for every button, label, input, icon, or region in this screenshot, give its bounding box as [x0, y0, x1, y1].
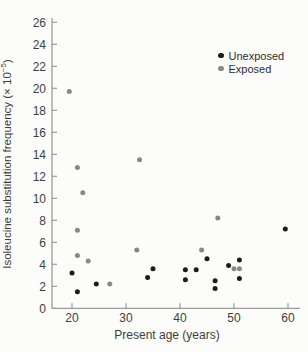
legend: Unexposed Exposed [218, 49, 284, 75]
y-tick-label: 10 [33, 192, 47, 206]
x-tick-label: 30 [119, 311, 133, 325]
x-tick-label: 60 [281, 311, 295, 325]
data-point-unexposed [283, 227, 288, 232]
data-point-unexposed [237, 276, 242, 281]
data-point-exposed [86, 259, 91, 264]
y-tick-label: 4 [39, 258, 46, 272]
data-point-unexposed [151, 266, 156, 271]
data-point-unexposed [205, 256, 210, 261]
y-tick-label: 16 [33, 126, 47, 140]
data-point-exposed [134, 248, 139, 253]
legend-label-exposed: Exposed [229, 63, 272, 75]
data-point-exposed [67, 89, 72, 94]
y-axis-title-text: Isoleucine substitution frequency (× 10 [1, 72, 13, 269]
legend-item-unexposed: Unexposed [218, 49, 284, 62]
data-point-unexposed [75, 289, 80, 294]
exposed-dot-icon [218, 66, 224, 72]
data-point-exposed [232, 266, 237, 271]
data-point-exposed [75, 165, 80, 170]
scatter-plot-figure: 024681012141618202224262030405060 Isoleu… [0, 0, 308, 352]
y-tick-label: 0 [39, 302, 46, 316]
data-point-unexposed [226, 263, 231, 268]
data-point-exposed [80, 190, 85, 195]
y-tick-label: 18 [33, 104, 47, 118]
data-point-unexposed [237, 257, 242, 262]
data-point-unexposed [183, 277, 188, 282]
data-point-exposed [75, 253, 80, 258]
y-tick-label: 14 [33, 148, 47, 162]
data-point-exposed [107, 282, 112, 287]
y-tick-label: 8 [39, 214, 46, 228]
data-point-unexposed [70, 271, 75, 276]
legend-item-exposed: Exposed [218, 62, 284, 75]
unexposed-dot-icon [218, 53, 224, 59]
y-tick-label: 26 [33, 16, 47, 30]
data-point-unexposed [194, 267, 199, 272]
x-tick-label: 40 [173, 311, 187, 325]
legend-label-unexposed: Unexposed [229, 50, 285, 62]
x-tick-label: 20 [65, 311, 79, 325]
y-tick-label: 2 [39, 280, 46, 294]
y-axis-title: Isoleucine substitution frequency (× 10−… [1, 14, 17, 314]
x-axis-title: Present age (years) [60, 328, 274, 342]
y-axis-title-suffix: ) [1, 59, 13, 63]
data-point-unexposed [213, 278, 218, 283]
y-axis-title-superscript: −5 [0, 63, 8, 72]
x-tick-label: 50 [227, 311, 241, 325]
data-point-unexposed [94, 282, 99, 287]
y-tick-label: 22 [33, 60, 47, 74]
y-tick-label: 24 [33, 38, 47, 52]
data-point-unexposed [183, 267, 188, 272]
data-point-exposed [137, 157, 142, 162]
y-tick-label: 6 [39, 236, 46, 250]
data-point-unexposed [213, 286, 218, 291]
y-tick-label: 12 [33, 170, 47, 184]
data-point-exposed [199, 248, 204, 253]
data-point-exposed [215, 216, 220, 221]
y-tick-label: 20 [33, 82, 47, 96]
data-point-unexposed [145, 275, 150, 280]
data-point-exposed [237, 266, 242, 271]
data-point-exposed [75, 228, 80, 233]
